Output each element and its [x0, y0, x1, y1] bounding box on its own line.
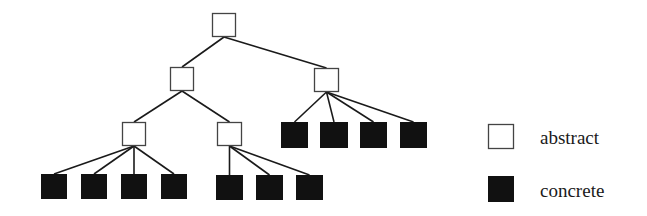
edge-n-right-to-leaf-11 [327, 92, 414, 122]
edge-n-left-left-to-leaf-1 [54, 146, 134, 174]
edge-root-to-n-right [224, 37, 327, 68]
tree-edges [54, 37, 414, 175]
edge-n-left-right-to-leaf-7 [230, 146, 310, 175]
concrete-node-leaf-10 [360, 122, 387, 148]
edge-n-left-to-n-left-left [134, 91, 182, 122]
legend-swatch-concrete [488, 176, 514, 202]
edge-n-left-right-to-leaf-6 [230, 146, 270, 175]
legend-label-abstract: abstract [540, 128, 599, 147]
legend-label-concrete: concrete [540, 181, 604, 200]
edge-n-left-to-n-left-right [182, 91, 230, 122]
edge-n-left-left-to-leaf-2 [94, 146, 134, 174]
concrete-node-leaf-3 [121, 174, 147, 199]
concrete-node-leaf-4 [161, 174, 187, 199]
legend [488, 125, 514, 203]
concrete-node-leaf-1 [41, 174, 67, 199]
edge-n-right-to-leaf-8 [295, 92, 327, 122]
edge-root-to-n-left [182, 37, 224, 67]
concrete-node-leaf-7 [296, 175, 323, 200]
abstract-node-n-left-left [123, 123, 146, 146]
abstract-node-n-left-right [218, 123, 242, 146]
abstract-node-n-left [171, 68, 194, 91]
concrete-node-leaf-2 [81, 174, 107, 199]
concrete-node-leaf-5 [216, 175, 243, 200]
legend-swatch-abstract [489, 125, 514, 149]
concrete-node-leaf-11 [400, 122, 427, 148]
abstract-node-n-right [315, 69, 339, 92]
edge-n-left-left-to-leaf-4 [134, 146, 174, 174]
concrete-node-leaf-9 [320, 122, 348, 148]
abstract-node-root [213, 14, 236, 37]
concrete-node-leaf-6 [256, 175, 283, 200]
concrete-node-leaf-8 [281, 122, 308, 148]
